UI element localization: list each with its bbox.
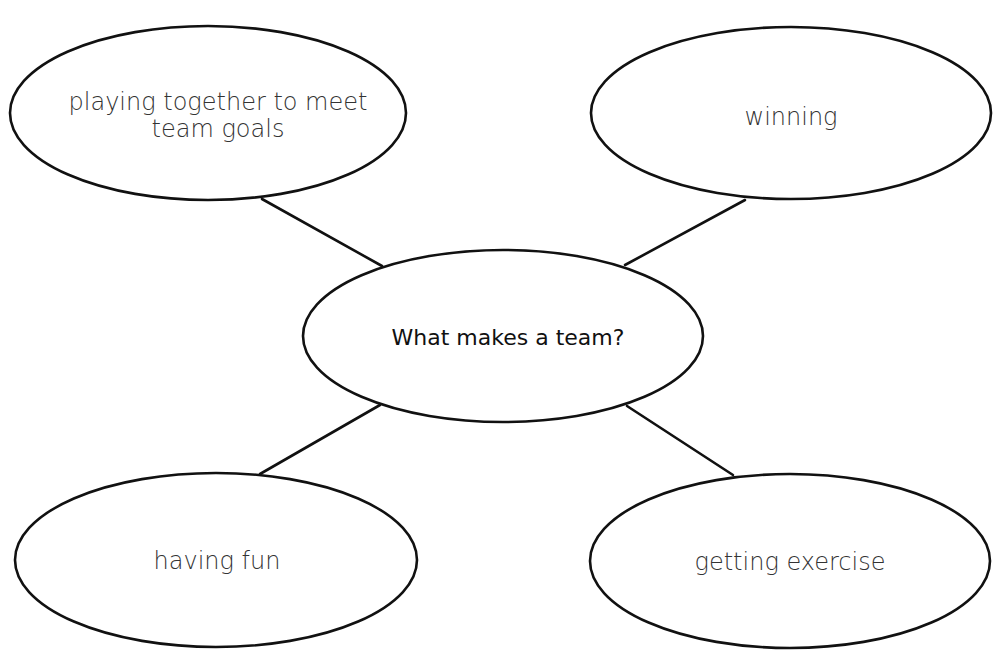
connector-top-left: [262, 199, 382, 266]
node-label-line-1: playing together to meet: [69, 88, 368, 116]
node-label-line-2: team goals: [152, 115, 285, 143]
concept-map: playing together to meet team goals winn…: [0, 0, 1007, 652]
node-label: winning: [745, 103, 838, 131]
node-bottom-right: getting exercise: [590, 474, 990, 648]
node-bottom-left: having fun: [15, 473, 417, 647]
connector-top-right: [625, 200, 745, 265]
connector-bottom-right: [627, 406, 733, 475]
node-center: What makes a team?: [303, 250, 703, 422]
center-label: What makes a team?: [392, 325, 625, 350]
node-label: having fun: [154, 547, 281, 575]
node-top-left: playing together to meet team goals: [10, 26, 406, 200]
connector-bottom-left: [260, 405, 380, 474]
node-top-right: winning: [591, 27, 991, 199]
node-label: getting exercise: [695, 548, 886, 576]
